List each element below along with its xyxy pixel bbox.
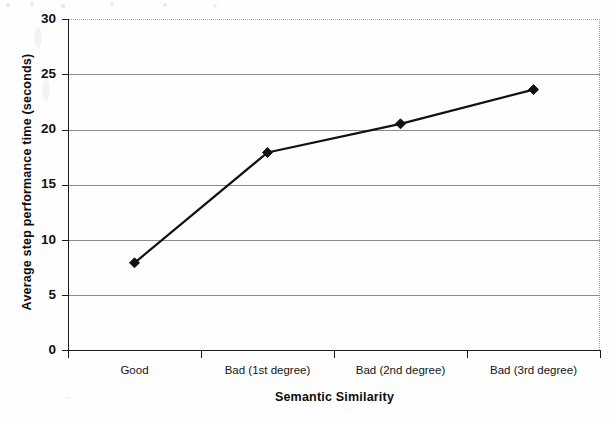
y-tick-label-15: 15 — [22, 177, 56, 191]
x-tick-label-bad-1st: Bad (1st degree) — [201, 364, 334, 376]
y-tick-label-0: 0 — [22, 343, 56, 357]
x-tick-label-bad-3rd: Bad (3rd degree) — [467, 364, 600, 376]
x-tick-label-bad-2nd: Bad (2nd degree) — [334, 364, 467, 376]
scan-artifact-top — [0, 0, 615, 10]
y-axis-line — [68, 19, 69, 351]
y-tick-label-25: 25 — [22, 67, 56, 81]
y-tick-label-20: 20 — [22, 122, 56, 136]
gridline-10 — [68, 240, 600, 241]
x-tick-mark-3 — [467, 350, 468, 358]
line-chart-figure: Average step performance time (seconds) … — [0, 0, 615, 422]
y-tick-label-10: 10 — [22, 233, 56, 247]
gridline-20 — [68, 130, 600, 131]
gridline-25 — [68, 74, 600, 75]
x-tick-mark-2 — [334, 350, 335, 358]
y-tick-label-5: 5 — [22, 288, 56, 302]
plot-border-top — [68, 19, 600, 20]
x-tick-mark-0 — [68, 350, 69, 358]
x-axis-title: Semantic Similarity — [68, 390, 601, 404]
gridline-5 — [68, 295, 600, 296]
x-tick-mark-1 — [201, 350, 202, 358]
x-tick-mark-4 — [600, 350, 601, 358]
gridline-15 — [68, 185, 600, 186]
plot-area — [68, 19, 600, 350]
x-tick-label-good: Good — [68, 364, 201, 376]
y-tick-label-30: 30 — [22, 12, 56, 26]
